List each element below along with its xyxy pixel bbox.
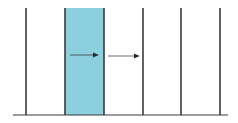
- diagram-canvas: [0, 0, 238, 123]
- highlighted-region: [65, 8, 104, 115]
- blue-column-fill: [65, 8, 104, 115]
- vertical-lines: [26, 8, 220, 115]
